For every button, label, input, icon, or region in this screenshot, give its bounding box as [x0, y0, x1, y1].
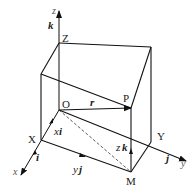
y-axis-label: y: [180, 158, 186, 169]
r-label: r: [90, 96, 95, 108]
xi-arrowhead: [49, 118, 53, 124]
zk-label: z k: [115, 141, 128, 153]
zk-arrowhead: [129, 148, 133, 154]
svg-text:i: i: [59, 125, 63, 137]
point-y-label: Y: [157, 130, 165, 142]
z-axis-label: z: [51, 5, 56, 16]
svg-text:k: k: [122, 141, 128, 153]
point-x-label: X: [28, 133, 36, 145]
yj-arrowhead: [79, 153, 86, 157]
x-axis-label: x: [12, 166, 18, 177]
point-o-label: O: [62, 98, 70, 110]
svg-text:z: z: [115, 141, 121, 153]
k-label: k: [48, 19, 54, 31]
xi-label: x i: [53, 125, 63, 137]
svg-text:y: y: [72, 163, 78, 175]
point-m-label: M: [126, 175, 136, 187]
x-axis: [21, 110, 59, 175]
i-label: i: [36, 151, 40, 163]
svg-text:j: j: [77, 163, 83, 175]
coordinate-diagram: z k Z O r P X x i i x y j z k Y j y M: [0, 0, 196, 194]
point-z-label: Z: [62, 32, 69, 44]
yj-label: y j: [72, 163, 83, 175]
point-p-label: P: [123, 92, 129, 104]
